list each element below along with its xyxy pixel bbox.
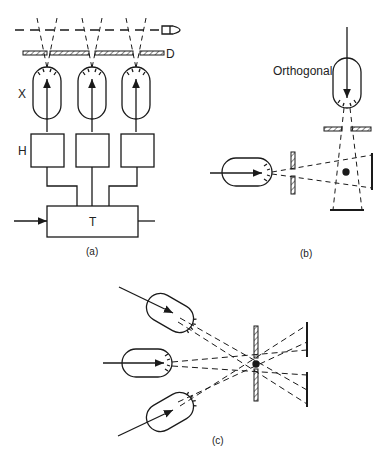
tube-1 <box>33 67 61 132</box>
tube-2 <box>78 67 106 132</box>
object-dot-c <box>253 361 259 367</box>
diaphragm-left-bottom <box>291 176 295 194</box>
viewing-cones <box>37 18 146 68</box>
tube-orthogonal <box>333 27 361 108</box>
label-t: T <box>89 215 97 229</box>
diaphragm-c-top <box>254 326 258 358</box>
diaphragm-c-bottom <box>254 369 258 401</box>
label-h: H <box>18 144 27 158</box>
diagram-canvas: D X H T (a) <box>0 0 387 454</box>
diaphragm-top-right <box>351 127 371 131</box>
box-h-3 <box>121 134 154 167</box>
caption-c: (c) <box>212 435 224 446</box>
panel-c <box>103 287 307 437</box>
tube-c-top <box>141 288 201 339</box>
diaphragm-left-top <box>291 152 295 169</box>
panel-a <box>14 18 180 237</box>
caption-b: (b) <box>300 248 312 259</box>
projectile-icon <box>162 26 180 34</box>
object-dot <box>343 169 349 175</box>
panel-b <box>210 27 372 210</box>
label-x: X <box>18 87 26 101</box>
label-d: D <box>166 47 175 61</box>
tube-horizontal <box>210 158 272 186</box>
caption-a: (a) <box>86 246 98 257</box>
label-orthogonal: Orthogonal <box>273 64 332 78</box>
tube-3 <box>122 67 150 132</box>
tube-c-middle <box>103 349 172 377</box>
box-h-1 <box>31 134 64 167</box>
box-h-2 <box>76 134 109 167</box>
diaphragm-top <box>324 127 342 131</box>
